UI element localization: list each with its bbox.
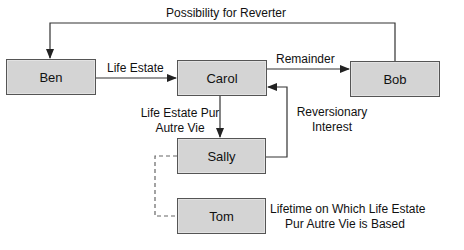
node-carol: Carol	[177, 60, 267, 96]
node-carol-label: Carol	[206, 71, 237, 86]
node-sally: Sally	[177, 138, 266, 174]
node-tom: Tom	[177, 198, 266, 234]
life-estate-label: Life Estate	[107, 61, 164, 76]
node-ben: Ben	[6, 59, 96, 95]
reverter-label: Possibility for Reverter	[166, 6, 286, 21]
pur-autre-vie-label: Life Estate Pur Autre Vie	[140, 106, 220, 136]
reversionary-label: Reversionary Interest	[292, 105, 372, 135]
node-bob: Bob	[350, 61, 440, 97]
node-sally-label: Sally	[207, 149, 235, 164]
pur-autre-vie-line2: Autre Vie	[140, 121, 220, 136]
measuring-life-label: Lifetime on Which Life Estate Pur Autre …	[270, 202, 420, 232]
reversionary-arrow	[266, 87, 287, 157]
node-ben-label: Ben	[39, 70, 62, 85]
remainder-label: Remainder	[276, 52, 335, 67]
measuring-life-dashed-link	[155, 156, 177, 216]
node-bob-label: Bob	[383, 72, 406, 87]
reversionary-line1: Reversionary	[292, 105, 372, 120]
reversionary-line2: Interest	[292, 120, 372, 135]
measuring-life-line2: Pur Autre Vie is Based	[270, 217, 420, 232]
reverter-arrow	[50, 23, 395, 61]
node-tom-label: Tom	[209, 209, 234, 224]
pur-autre-vie-line1: Life Estate Pur	[140, 106, 220, 121]
measuring-life-line1: Lifetime on Which Life Estate	[270, 202, 420, 217]
